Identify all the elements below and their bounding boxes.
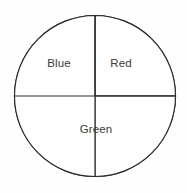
pie-slice-blue[interactable]: [95, 16, 176, 97]
pie-slice-label-blue: Blue: [42, 57, 76, 70]
pie-slice-red[interactable]: [95, 96, 176, 177]
pie-chart-svg: [0, 0, 187, 193]
pie-slice-label-red: Red: [106, 57, 136, 70]
pie-slice-label-green: Green: [75, 123, 117, 136]
pie-chart-figure: Blue Red Green: [0, 0, 187, 193]
